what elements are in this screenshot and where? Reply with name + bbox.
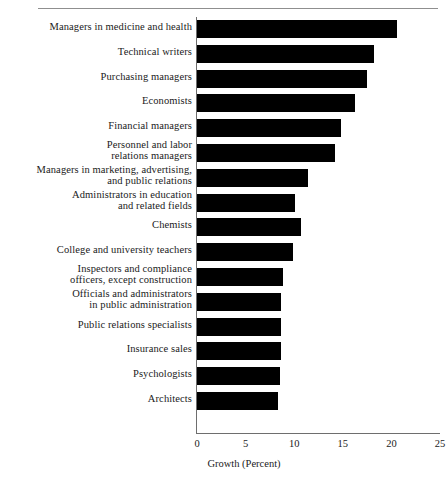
bar-category-label: Administrators in education and related … <box>2 189 192 212</box>
bar <box>197 70 367 88</box>
x-tick-label: 20 <box>386 437 397 450</box>
bar-category-label: Architects <box>2 387 192 404</box>
bar <box>197 194 295 212</box>
bar-row: Financial managers <box>0 114 446 139</box>
bar-category-label: Managers in medicine and health <box>2 15 192 32</box>
bar <box>197 293 281 311</box>
y-axis-spine <box>196 17 197 434</box>
x-tick-label: 25 <box>435 437 446 450</box>
bar <box>197 169 308 187</box>
x-tick-label: 10 <box>289 437 300 450</box>
bar-row: Officials and administrators in public a… <box>0 288 446 313</box>
bar-row: Personnel and labor relations managers <box>0 139 446 164</box>
bar-category-label: Technical writers <box>2 40 192 57</box>
x-tick-label: 5 <box>243 437 248 450</box>
bar <box>197 144 335 162</box>
bar-category-label: Economists <box>2 89 192 106</box>
bar-row: Purchasing managers <box>0 65 446 90</box>
x-axis-spine <box>196 433 440 434</box>
bar-row: Chemists <box>0 213 446 238</box>
bar <box>197 218 301 236</box>
x-tick-label: 15 <box>338 437 349 450</box>
bar-category-label: Officials and administrators in public a… <box>2 288 192 311</box>
bar-row: College and university teachers <box>0 238 446 263</box>
bar-row: Managers in medicine and health <box>0 15 446 40</box>
chart-figure: Managers in medicine and healthTechnical… <box>0 0 446 487</box>
bar <box>197 342 281 360</box>
bar <box>197 94 355 112</box>
bar <box>197 45 374 63</box>
bar <box>197 119 341 137</box>
bar-category-label: Purchasing managers <box>2 65 192 82</box>
bar <box>197 392 278 410</box>
bar <box>197 268 283 286</box>
bar-category-label: Chemists <box>2 213 192 230</box>
bar-row: Administrators in education and related … <box>0 189 446 214</box>
bar-row: Managers in marketing, advertising, and … <box>0 164 446 189</box>
bar <box>197 20 397 38</box>
bar-category-label: College and university teachers <box>2 238 192 255</box>
bar-category-label: Public relations specialists <box>2 313 192 330</box>
bar-category-label: Managers in marketing, advertising, and … <box>2 164 192 187</box>
bar-category-label: Financial managers <box>2 114 192 131</box>
bar-row: Public relations specialists <box>0 313 446 338</box>
bar <box>197 318 281 336</box>
bar-category-label: Insurance sales <box>2 337 192 354</box>
bar-row: Inspectors and compliance officers, exce… <box>0 263 446 288</box>
bar-chart-plot: Managers in medicine and healthTechnical… <box>0 0 446 487</box>
bar-row: Technical writers <box>0 40 446 65</box>
bar <box>197 243 293 261</box>
bar-category-label: Psychologists <box>2 362 192 379</box>
x-axis-label-text: Growth (Percent) <box>207 458 280 469</box>
bar <box>197 367 280 385</box>
bar-row: Psychologists <box>0 362 446 387</box>
bar-row: Insurance sales <box>0 337 446 362</box>
bar-category-label: Personnel and labor relations managers <box>2 139 192 162</box>
bar-row: Architects <box>0 387 446 412</box>
x-tick-label: 0 <box>194 437 199 450</box>
x-axis-label: Growth (Percent) <box>0 458 446 469</box>
x-tick-labels: 0510152025 <box>0 437 446 451</box>
bar-category-label: Inspectors and compliance officers, exce… <box>2 263 192 286</box>
bar-row: Economists <box>0 89 446 114</box>
